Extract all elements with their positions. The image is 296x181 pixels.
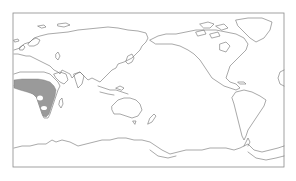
- shaded-region-sub-saharan-africa: [14, 79, 56, 117]
- ross-ice-shelf-outline: [150, 150, 176, 158]
- caribbean-islands-coastline: [238, 82, 246, 84]
- arabia-coastline: [54, 72, 68, 84]
- world-map: [0, 0, 296, 181]
- iceland-coastline: [14, 39, 19, 42]
- antarctica-coastline: [14, 138, 284, 154]
- svalbard-coastline: [38, 23, 70, 28]
- indonesia-coastline: [98, 86, 128, 95]
- tasmania-coastline: [133, 121, 136, 124]
- map-figure: [0, 0, 296, 181]
- scandinavia-coastline: [28, 38, 40, 46]
- ice-shelf-outline: [248, 152, 284, 160]
- eurasia-coastline: [14, 27, 148, 82]
- madagascar-coastline: [59, 98, 63, 108]
- north-america-coastline: [150, 30, 248, 90]
- caspian-sea-outline: [56, 52, 60, 60]
- new-zealand-coastline: [148, 114, 156, 124]
- greenland-coastline: [236, 18, 272, 42]
- unshaded-patch: [37, 96, 43, 101]
- west-africa-wrap-coastline: [278, 70, 284, 86]
- south-america-coastline: [232, 90, 266, 140]
- unshaded-patch: [41, 106, 47, 110]
- australia-coastline: [112, 98, 142, 118]
- hudson-bay-outline: [220, 42, 230, 52]
